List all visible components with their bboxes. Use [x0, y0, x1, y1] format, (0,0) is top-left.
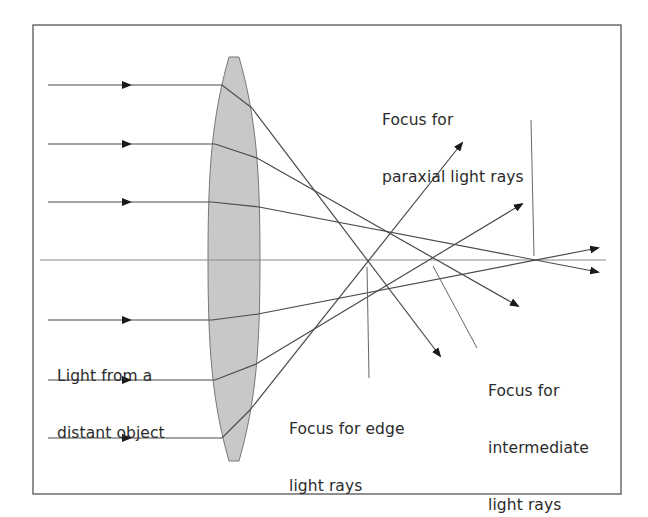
label-paraxial-line1: Focus for — [382, 111, 524, 130]
leader-paraxial — [531, 120, 534, 256]
label-light-source-line2: distant object — [57, 424, 165, 443]
refracted-ray-arrow-icon — [258, 248, 598, 314]
label-edge-focus: Focus for edge light rays — [289, 382, 405, 517]
leader-intermediate — [433, 266, 477, 348]
label-light-source: Light from a distant object — [57, 329, 165, 481]
label-edge-line1: Focus for edge — [289, 420, 405, 439]
label-intermediate-line2: intermediate — [488, 439, 589, 458]
convex-lens — [208, 57, 260, 461]
light-ray — [48, 248, 598, 320]
label-intermediate-line3: light rays — [488, 496, 589, 515]
leader-edge — [367, 267, 369, 378]
refracted-ray-arrow-icon — [256, 204, 522, 364]
label-intermediate-line1: Focus for — [488, 382, 589, 401]
label-paraxial-focus: Focus for paraxial light rays — [382, 73, 524, 225]
label-edge-line2: light rays — [289, 477, 405, 496]
label-intermediate-focus: Focus for intermediate light rays — [488, 344, 589, 517]
label-light-source-line1: Light from a — [57, 367, 165, 386]
label-paraxial-line2: paraxial light rays — [382, 168, 524, 187]
